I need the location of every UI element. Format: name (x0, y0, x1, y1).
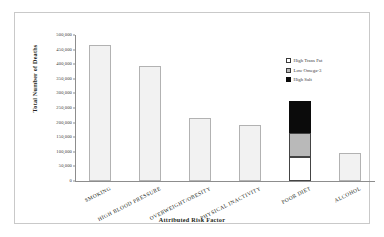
y-tick-mark (73, 166, 75, 167)
y-tick-label: 350,000 (56, 77, 72, 82)
x-tick-label: SMOKING (84, 185, 112, 203)
bar-segment[interactable] (89, 45, 111, 181)
y-tick-label: 300,000 (56, 91, 72, 96)
y-tick-label: 50,000 (59, 164, 72, 169)
bar[interactable] (339, 153, 361, 181)
bar-segment[interactable] (289, 101, 311, 133)
bar-segment[interactable] (189, 118, 211, 181)
legend-item[interactable]: High Salt (286, 77, 322, 82)
y-tick-label: 500,000 (56, 33, 72, 38)
legend-item[interactable]: High Trans Fat (286, 58, 322, 63)
y-tick-label: 400,000 (56, 62, 72, 67)
bar[interactable] (289, 101, 311, 181)
y-tick-mark (73, 181, 75, 182)
chart-legend: High Trans FatLow Omega-3High Salt (286, 58, 322, 82)
bar[interactable] (189, 118, 211, 181)
x-tick-label: ALCOHOL (333, 185, 361, 203)
plot-area: 050,000100,000150,000200,000250,000300,0… (75, 35, 375, 181)
y-tick-mark (73, 151, 75, 152)
y-tick-mark (73, 108, 75, 109)
legend-label: High Trans Fat (294, 58, 323, 63)
bar[interactable] (239, 125, 261, 181)
y-tick-mark (73, 35, 75, 36)
y-tick-label: 150,000 (56, 135, 72, 140)
legend-label: Low Omega-3 (294, 68, 322, 73)
y-tick-label: 100,000 (56, 150, 72, 155)
legend-swatch-icon (286, 58, 291, 63)
x-axis-line (75, 181, 375, 182)
y-tick-mark (73, 122, 75, 123)
bar-segment[interactable] (289, 157, 311, 181)
chart-figure: Total Number of Deaths 050,000100,000150… (0, 0, 384, 237)
y-tick-mark (73, 64, 75, 65)
y-tick-label: 450,000 (56, 47, 72, 52)
legend-item[interactable]: Low Omega-3 (286, 68, 322, 73)
y-axis-title: Total Number of Deaths (31, 24, 38, 134)
bar-segment[interactable] (339, 153, 361, 181)
legend-swatch-icon (286, 77, 291, 82)
y-tick-mark (73, 93, 75, 94)
bar[interactable] (139, 66, 161, 181)
bar[interactable] (89, 45, 111, 181)
y-tick-label: 0 (70, 179, 72, 184)
x-axis-title: Attributed Risk Factor (15, 216, 369, 223)
y-tick-mark (73, 137, 75, 138)
y-tick-mark (73, 78, 75, 79)
legend-swatch-icon (286, 68, 291, 73)
x-tick-label: POOR DIET (280, 185, 311, 205)
bar-segment[interactable] (139, 66, 161, 181)
y-tick-mark (73, 49, 75, 50)
y-tick-label: 200,000 (56, 120, 72, 125)
bar-segment[interactable] (239, 125, 261, 181)
plot-frame: Total Number of Deaths 050,000100,000150… (14, 12, 370, 224)
legend-label: High Salt (294, 77, 312, 82)
bar-segment[interactable] (289, 133, 311, 157)
y-tick-label: 250,000 (56, 106, 72, 111)
